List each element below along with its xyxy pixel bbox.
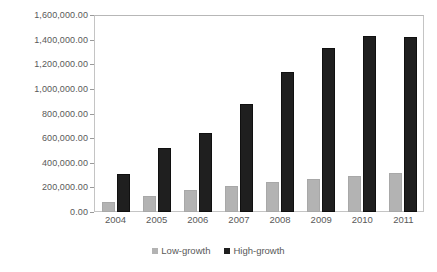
bar-group [260, 15, 301, 212]
x-axis-tick-label: 2011 [383, 214, 424, 226]
bar-group [342, 15, 383, 212]
x-axis-tick-label: 2010 [342, 214, 383, 226]
y-axis-tick-label: 200,000.00 [0, 183, 88, 192]
bar-chart: 0.00200,000.00400,000.00600,000.00800,00… [0, 0, 437, 272]
y-axis-tick-label: 400,000.00 [0, 158, 88, 167]
bar-high-growth-2006[interactable] [199, 133, 212, 212]
plot-area [95, 15, 424, 212]
bar-low-growth-2005[interactable] [143, 196, 156, 212]
bar-low-growth-2007[interactable] [225, 186, 238, 212]
y-axis-tick-label: 1,000,000.00 [0, 84, 88, 93]
bar-group [218, 15, 259, 212]
x-axis: 20042005200620072008200920102011 [95, 214, 424, 230]
legend-swatch-icon-high-growth [224, 248, 230, 254]
bar-group [177, 15, 218, 212]
legend-item-low-growth[interactable]: Low-growth [152, 246, 210, 256]
x-axis-tick-label: 2004 [95, 214, 136, 226]
x-axis-tick-label: 2008 [260, 214, 301, 226]
y-axis-tick-label: 600,000.00 [0, 134, 88, 143]
bar-high-growth-2007[interactable] [240, 104, 253, 212]
legend-label-low-growth: Low-growth [161, 246, 210, 256]
y-axis-tick-label: 0.00 [0, 208, 88, 217]
y-axis-tick-label: 800,000.00 [0, 109, 88, 118]
bar-low-growth-2010[interactable] [348, 176, 361, 212]
bar-group [301, 15, 342, 212]
y-axis-tick-label: 1,200,000.00 [0, 60, 88, 69]
x-axis-tick-label: 2005 [136, 214, 177, 226]
bar-group [95, 15, 136, 212]
y-axis-tick-label: 1,400,000.00 [0, 35, 88, 44]
bar-high-growth-2009[interactable] [322, 48, 335, 212]
bar-low-growth-2009[interactable] [307, 179, 320, 212]
bar-high-growth-2008[interactable] [281, 72, 294, 212]
bar-low-growth-2011[interactable] [389, 173, 402, 212]
bar-high-growth-2011[interactable] [404, 37, 417, 212]
x-axis-tick-label: 2007 [218, 214, 259, 226]
bar-low-growth-2008[interactable] [266, 182, 279, 212]
x-axis-tick-label: 2009 [301, 214, 342, 226]
bar-low-growth-2006[interactable] [184, 190, 197, 212]
bar-group [136, 15, 177, 212]
chart-legend: Low-growth High-growth [0, 246, 437, 256]
x-axis-tick-label: 2006 [177, 214, 218, 226]
bar-high-growth-2010[interactable] [363, 36, 376, 212]
y-axis-tick-label: 1,600,000.00 [0, 11, 88, 20]
legend-label-high-growth: High-growth [233, 246, 284, 256]
bar-high-growth-2004[interactable] [117, 174, 130, 212]
y-axis: 0.00200,000.00400,000.00600,000.00800,00… [0, 15, 88, 212]
bar-low-growth-2004[interactable] [102, 202, 115, 212]
legend-swatch-icon-low-growth [152, 248, 158, 254]
y-axis-tick-mark [90, 212, 94, 213]
bar-group [383, 15, 424, 212]
bar-high-growth-2005[interactable] [158, 148, 171, 212]
legend-item-high-growth[interactable]: High-growth [224, 246, 284, 256]
